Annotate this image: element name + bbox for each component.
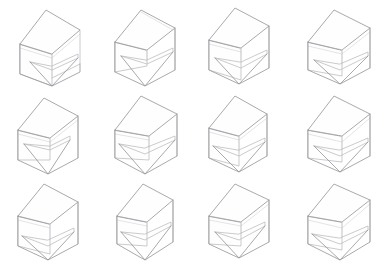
wireframe-figure (97, 88, 194, 176)
wireframe-sheet (0, 0, 386, 264)
wireframe-figure (290, 176, 386, 264)
wireframe-figure (193, 176, 290, 264)
wireframe-figure (0, 88, 97, 176)
variation-11[interactable] (193, 176, 290, 264)
variation-grid (0, 0, 386, 264)
wireframe-figure (97, 176, 194, 264)
variation-3[interactable] (193, 0, 290, 88)
wireframe-figure (193, 0, 290, 88)
variation-10[interactable] (97, 176, 194, 264)
top-face (308, 96, 370, 136)
variation-4[interactable] (290, 0, 386, 88)
variation-7[interactable] (193, 88, 290, 176)
wireframe-figure (0, 0, 97, 88)
top-face (209, 184, 269, 222)
top-face (308, 184, 370, 222)
top-face (115, 96, 177, 136)
variation-2[interactable] (97, 0, 194, 88)
top-face (117, 184, 173, 222)
variation-1[interactable] (0, 0, 97, 88)
wireframe-figure (97, 0, 194, 88)
variation-6[interactable] (97, 88, 194, 176)
variation-9[interactable] (0, 176, 97, 264)
variation-5[interactable] (0, 88, 97, 176)
variation-12[interactable] (290, 176, 386, 264)
wireframe-figure (193, 88, 290, 176)
variation-8[interactable] (290, 88, 386, 176)
wireframe-figure (290, 88, 386, 176)
wireframe-figure (0, 176, 97, 264)
wireframe-figure (290, 0, 386, 88)
